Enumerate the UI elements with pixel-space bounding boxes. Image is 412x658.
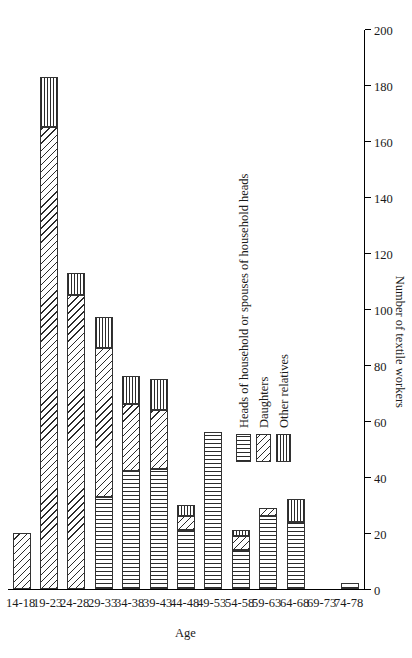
value-axis-tick [365, 85, 371, 86]
value-axis-tick [365, 421, 371, 422]
legend-label: Heads of household or spouses of househo… [238, 174, 250, 428]
bar-segment [122, 376, 140, 404]
category-axis-label: 64-68 [280, 597, 309, 609]
value-axis-tick-label: 80 [374, 361, 387, 373]
value-axis-tick-label: 20 [374, 529, 387, 541]
value-axis-tick [365, 365, 371, 366]
bar-segment [232, 530, 250, 536]
value-axis-tick [365, 197, 371, 198]
bar-segment [67, 273, 85, 295]
value-axis-tick [365, 477, 371, 478]
category-axis-label: 29-33 [88, 597, 117, 609]
category-axis-label: 19-23 [33, 597, 62, 609]
category-axis-label: 24-28 [60, 597, 89, 609]
legend-label: Other relatives [278, 354, 290, 428]
chart-page: 02040608010012014016018020014-1819-2324-… [0, 0, 412, 658]
value-axis-tick-label: 160 [374, 137, 393, 149]
value-axis-tick-label: 100 [374, 305, 393, 317]
bar-segment [232, 536, 250, 550]
bar-segment [122, 471, 140, 589]
bar-segment [13, 533, 31, 589]
value-axis-tick [365, 309, 371, 310]
bar-segment [40, 127, 58, 589]
category-axis-label: 59-63 [252, 597, 281, 609]
bar-segment [259, 508, 277, 516]
value-axis-tick [365, 29, 371, 30]
category-axis-label: 69-73 [307, 597, 336, 609]
legend-label: Daughters [258, 377, 270, 428]
value-axis-tick [365, 589, 371, 590]
bar-segment [287, 499, 305, 521]
value-axis-tick-label: 200 [374, 25, 393, 37]
category-axis-label: 34-38 [115, 597, 144, 609]
legend-swatch [256, 434, 271, 462]
legend-swatch [236, 434, 251, 462]
value-axis-title: Number of textile workers [392, 276, 407, 408]
legend-swatch [276, 434, 291, 462]
value-axis-tick-label: 40 [374, 473, 387, 485]
value-axis-tick [365, 533, 371, 534]
plot-area: 02040608010012014016018020014-1819-2324-… [8, 30, 364, 590]
category-axis-label: 44-48 [170, 597, 199, 609]
bar-segment [122, 404, 140, 471]
category-axis-label: 74-78 [334, 597, 363, 609]
bar-segment [40, 77, 58, 127]
bar-segment [177, 505, 195, 516]
bar-segment [95, 317, 113, 348]
bar-segment [287, 522, 305, 589]
value-axis-tick [365, 141, 371, 142]
category-axis-line [8, 589, 364, 590]
category-axis-label: 49-53 [197, 597, 226, 609]
bar-segment [341, 583, 359, 589]
rotated-figure: 02040608010012014016018020014-1819-2324-… [0, 0, 412, 658]
bar-segment [95, 348, 113, 496]
bar-segment [95, 497, 113, 589]
category-axis-label: 14-18 [6, 597, 35, 609]
category-axis-label: 39-43 [143, 597, 172, 609]
bar-segment [67, 295, 85, 589]
bar-segment [177, 516, 195, 530]
value-axis-line [364, 30, 365, 590]
bar-segment [204, 432, 222, 589]
bar-segment [259, 516, 277, 589]
value-axis-tick-label: 120 [374, 249, 393, 261]
bar-segment [150, 379, 168, 410]
value-axis-tick-label: 60 [374, 417, 387, 429]
category-axis-title: Age [175, 626, 196, 641]
bar-segment [150, 469, 168, 589]
value-axis-tick [365, 253, 371, 254]
bar-segment [232, 550, 250, 589]
value-axis-tick-label: 0 [374, 585, 380, 597]
bar-segment [150, 410, 168, 469]
value-axis-tick-label: 180 [374, 81, 393, 93]
value-axis-tick-label: 140 [374, 193, 393, 205]
category-axis-label: 54-58 [225, 597, 254, 609]
bar-segment [177, 530, 195, 589]
